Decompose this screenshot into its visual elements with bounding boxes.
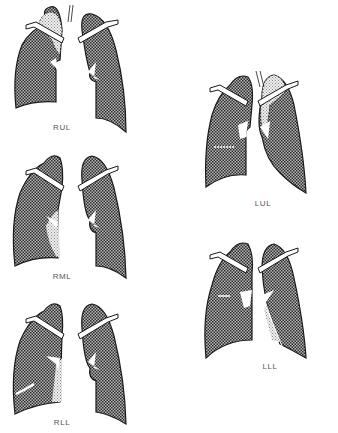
panel-rll: RLL xyxy=(0,296,170,433)
panel-rul: RUL xyxy=(0,0,170,140)
left-lung xyxy=(262,244,306,358)
label-lul: LUL xyxy=(243,199,283,208)
label-rul: RUL xyxy=(42,123,82,132)
trachea-deviation-mark xyxy=(68,5,73,22)
label-lll: LLL xyxy=(250,362,290,371)
label-rml: RML xyxy=(42,272,82,281)
trachea-deviation-mark xyxy=(256,71,264,87)
lung-diagram-rul xyxy=(0,0,170,140)
lung-diagram-rml xyxy=(0,148,170,288)
label-rll: RLL xyxy=(42,418,82,427)
panel-lul: LUL xyxy=(200,65,338,215)
lung-diagram-lul xyxy=(200,65,338,215)
lung-diagram-rll xyxy=(0,296,170,433)
panel-lll: LLL xyxy=(200,240,338,390)
panel-rml: RML xyxy=(0,148,170,288)
